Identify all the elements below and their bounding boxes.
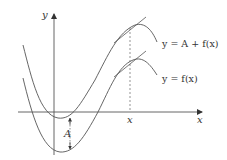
x-marker-label: x [127,114,133,125]
shifted-curve-label: y = A + f(x) [161,38,219,49]
function-shift-diagram: y x x A y = A + f(x) y = f(x) [0,0,227,160]
x-axis-label: x [197,114,203,125]
tangent-line-upper [114,17,146,43]
shifted-curve [23,24,157,118]
original-curve-label: y = f(x) [161,73,198,84]
y-axis-label: y [41,9,48,20]
shift-label: A [63,128,71,139]
